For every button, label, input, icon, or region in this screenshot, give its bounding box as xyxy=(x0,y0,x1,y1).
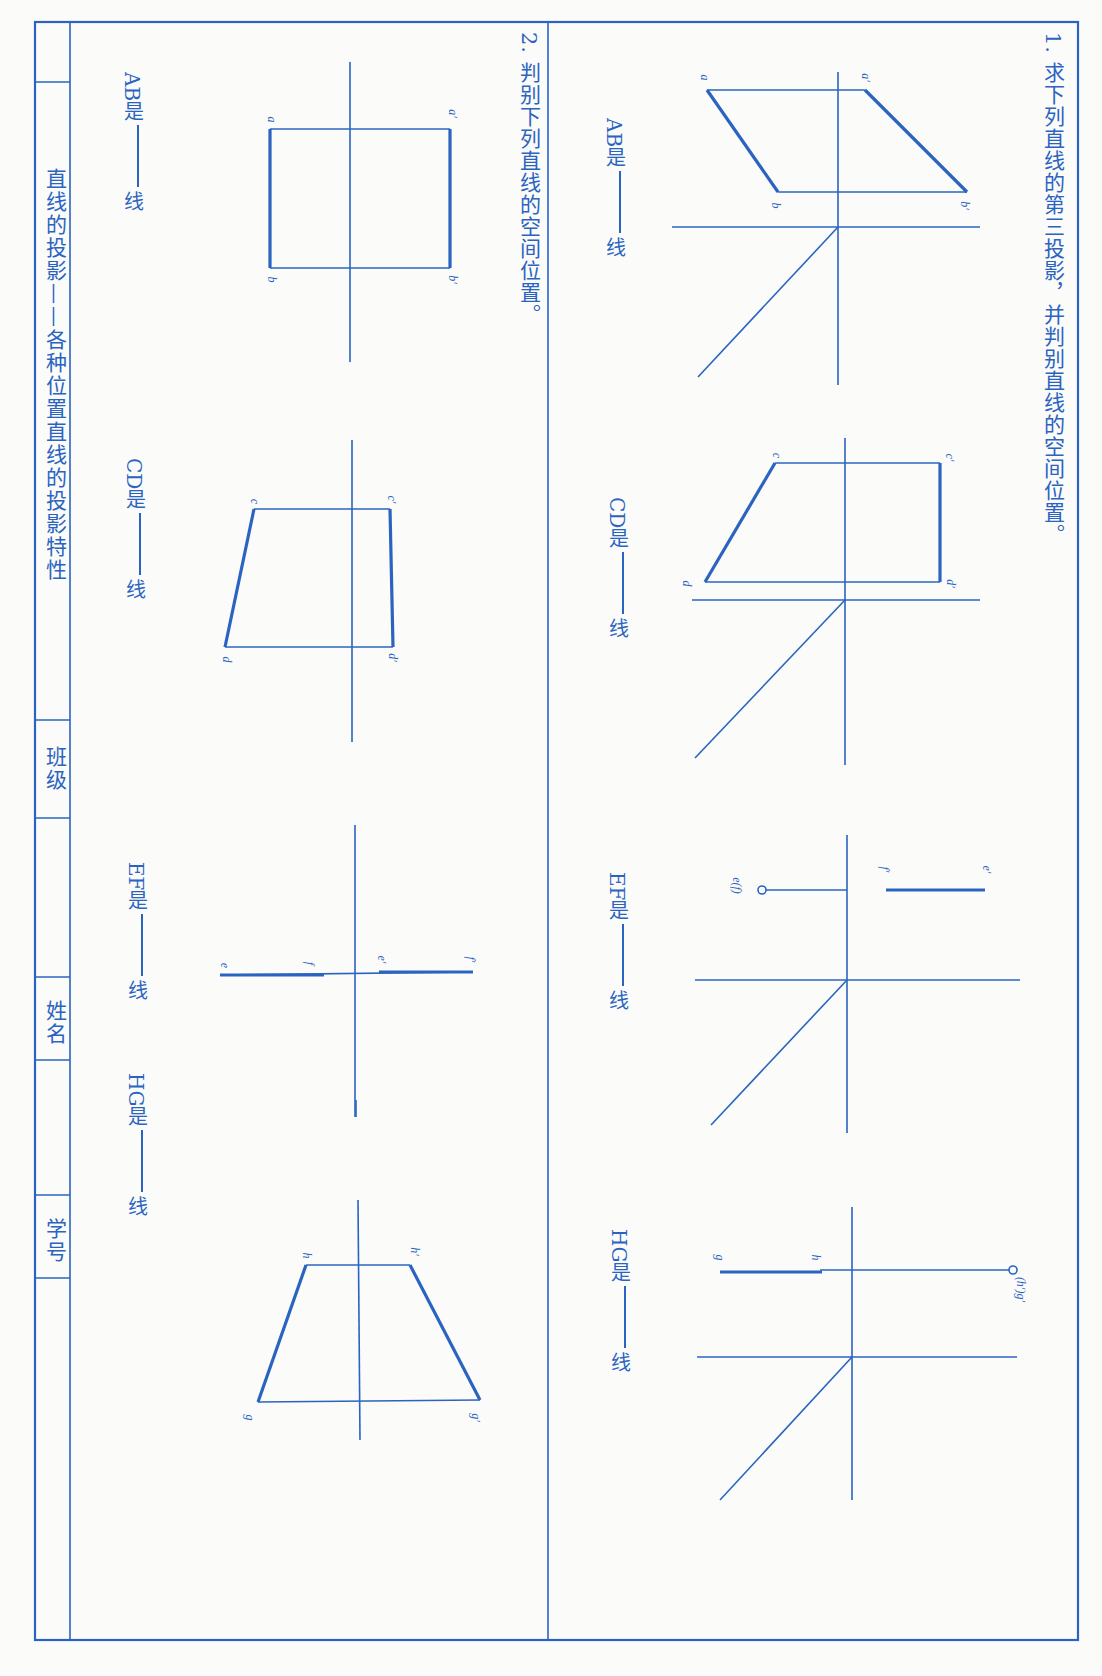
drawing-canvas xyxy=(0,0,1102,1676)
label-s1-b-prime: b′ xyxy=(957,201,972,210)
label-s2-d: d xyxy=(219,657,234,663)
s1-hg-answer-blank[interactable] xyxy=(624,1286,626,1348)
label-s1-hg-prime: (h′)g′ xyxy=(1013,1277,1028,1302)
label-s1-d: d xyxy=(679,581,694,587)
label-s1-f-prime: f′ xyxy=(877,867,892,873)
s1-ab-drawing xyxy=(672,72,980,385)
label-s1-d-prime: d′ xyxy=(943,579,958,588)
label-s1-g: g xyxy=(712,1255,727,1261)
s2-cd-answer: CD是线 xyxy=(120,458,149,599)
s1-ef-answer-blank[interactable] xyxy=(622,924,624,986)
label-s1-a: a xyxy=(697,75,712,81)
label-s2-a: a xyxy=(264,117,279,123)
label-s2-f-prime: f′ xyxy=(463,957,478,963)
class-label: 班级 xyxy=(40,746,70,792)
s2-ab-answer: AB是线 xyxy=(118,72,147,211)
id-label: 学号 xyxy=(40,1218,70,1264)
s1-cd-answer: CD是线 xyxy=(603,497,632,638)
label-s2-g: g xyxy=(242,1415,257,1421)
s2-cd-drawing xyxy=(225,440,393,742)
s2-ef-drawing xyxy=(220,825,473,1117)
s1-cd-drawing xyxy=(692,438,980,765)
worksheet-page: 1. 求下列直线的第三投影，并判别直线的空间位置。 2. 判别下列直线的空间位置… xyxy=(0,0,1102,1676)
s2-hg-drawing xyxy=(258,1100,480,1440)
label-s2-e: e xyxy=(217,963,232,968)
s2-ef-answer: EF是线 xyxy=(122,862,151,1000)
s2-ab-answer-blank[interactable] xyxy=(137,125,139,187)
s1-ab-answer-blank[interactable] xyxy=(619,171,621,233)
label-s1-c-prime: c′ xyxy=(942,454,957,462)
name-label: 姓名 xyxy=(40,1000,70,1046)
section1-title: 1. 求下列直线的第三投影，并判别直线的空间位置。 xyxy=(1038,32,1068,546)
label-s1-e-prime: e′ xyxy=(979,866,994,874)
s2-ef-answer-blank[interactable] xyxy=(141,914,143,976)
label-s2-f: f xyxy=(302,962,317,965)
label-s1-h: h xyxy=(808,1255,823,1261)
label-s2-g-prime: g′ xyxy=(468,1413,483,1422)
label-s1-b: b xyxy=(768,203,783,209)
s2-ab-drawing xyxy=(270,62,450,362)
label-s2-h-prime: h′ xyxy=(407,1247,422,1256)
label-s2-b-prime: b′ xyxy=(445,275,460,284)
s1-ab-answer: AB是线 xyxy=(600,118,629,257)
label-s2-c: c xyxy=(247,499,262,504)
title-block-heading: 直线的投影——各种位置直线的投影特性 xyxy=(40,168,70,582)
label-s2-a-prime: a′ xyxy=(445,109,460,118)
s2-hg-answer: HG是线 xyxy=(122,1073,151,1216)
s1-ef-answer: EF是线 xyxy=(603,872,632,1010)
label-s2-h: h xyxy=(299,1253,314,1259)
s1-hg-drawing xyxy=(697,1207,1017,1500)
label-s2-b: b xyxy=(264,277,279,283)
s2-cd-answer-blank[interactable] xyxy=(139,513,141,575)
label-s2-c-prime: c′ xyxy=(384,496,399,504)
section2-title: 2. 判别下列直线的空间位置。 xyxy=(514,32,544,326)
s1-cd-answer-blank[interactable] xyxy=(622,552,624,614)
label-s1-a-prime: a′ xyxy=(858,73,873,82)
label-s1-c: c xyxy=(769,453,784,458)
label-s1-e-f: e(f) xyxy=(729,877,744,894)
s2-hg-answer-blank[interactable] xyxy=(141,1130,143,1192)
page-frame xyxy=(35,22,1078,1640)
label-s2-e-prime: e′ xyxy=(374,956,389,964)
label-s2-d-prime: d′ xyxy=(385,653,400,662)
s1-hg-answer: HG是线 xyxy=(605,1229,634,1372)
